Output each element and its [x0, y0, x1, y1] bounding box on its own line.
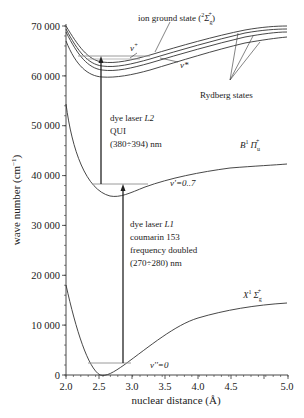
b-state-label: B1Πu+ — [240, 138, 260, 152]
x-tick-4.5: 4.5 — [224, 381, 237, 392]
x-axis — [66, 375, 288, 379]
y-tick-10000: 10 000 — [31, 320, 60, 331]
arrow-l1 — [121, 184, 126, 363]
x-state-label: X1Σg+ — [242, 288, 262, 302]
svg-text:coumarin 153: coumarin 153 — [130, 232, 180, 242]
rydberg-curve-1 — [66, 29, 287, 67]
x-tick-3.0: 3.0 — [125, 381, 138, 392]
y-tick-50000: 50 000 — [31, 120, 60, 131]
y-tick-30000: 30 000 — [31, 220, 60, 231]
potential-energy-diagram: 0 10 000 20 000 30 000 40 000 50 000 60 … — [0, 0, 304, 418]
x-tick-3.5: 3.5 — [158, 381, 171, 392]
l2-annotation: dye laser L2 QUI (380÷394) nm — [110, 113, 162, 149]
x-tick-labels: 2.0 2.5 3.0 3.5 4.0 4.5 5.0 — [59, 381, 293, 392]
ion-ground-state-label: ion ground state (2Σg+) — [138, 11, 215, 25]
l1-annotation: dye laser L1 coumarin 153 frequency doub… — [130, 219, 198, 268]
y-tick-0: 0 — [55, 370, 60, 381]
y-tick-20000: 20 000 — [31, 270, 60, 281]
svg-text:(380÷394) nm: (380÷394) nm — [110, 139, 162, 149]
x-tick-5.0: 5.0 — [280, 381, 293, 392]
svg-text:dye laser L1: dye laser L1 — [130, 219, 174, 229]
x-axis-title: nuclear distance (Å) — [131, 394, 221, 407]
v-plus-label: v+ — [130, 42, 138, 53]
y-axis — [62, 24, 66, 375]
v-star-label: v* — [180, 60, 189, 70]
svg-text:frequency doubled: frequency doubled — [130, 245, 198, 255]
x-tick-4.0: 4.0 — [191, 381, 204, 392]
y-tick-40000: 40 000 — [31, 170, 60, 181]
svg-text:QUI: QUI — [110, 126, 126, 136]
svg-text:dye laser L2: dye laser L2 — [110, 113, 154, 123]
ion-rydberg-curves — [66, 26, 287, 77]
rydberg-curve-3 — [66, 37, 287, 77]
rydberg-states-label: Rydberg states — [200, 90, 253, 100]
v-double-prime-label: v''=0 — [150, 360, 169, 370]
arrow-l2 — [99, 56, 104, 184]
y-axis-title: wave number (cm−1) — [10, 154, 23, 245]
x-tick-2.5: 2.5 — [92, 381, 105, 392]
v-prime-label: v'=0..7 — [170, 178, 196, 188]
x-tick-2.0: 2.0 — [59, 381, 72, 392]
y-tick-60000: 60 000 — [31, 71, 60, 82]
y-tick-70000: 70 000 — [31, 21, 60, 32]
svg-text:(270÷280) nm: (270÷280) nm — [130, 258, 182, 268]
y-tick-labels: 0 10 000 20 000 30 000 40 000 50 000 60 … — [31, 21, 60, 381]
